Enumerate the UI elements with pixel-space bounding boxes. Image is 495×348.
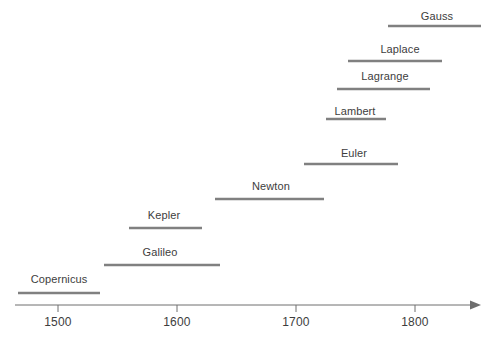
x-axis-tick-label: 1700 bbox=[282, 316, 310, 329]
timeline-chart: CopernicusGalileoKeplerNewtonEulerLamber… bbox=[0, 0, 495, 348]
timeline-bar-label: Laplace bbox=[380, 43, 419, 55]
timeline-bar-label: Lambert bbox=[334, 105, 375, 117]
x-axis-tick-label: 1800 bbox=[401, 316, 429, 329]
timeline-plot-svg bbox=[0, 0, 495, 348]
timeline-bars-group bbox=[18, 26, 481, 293]
timeline-bar-label: Kepler bbox=[148, 209, 180, 221]
x-axis-tick-label: 1500 bbox=[44, 316, 72, 329]
timeline-bar-label: Galileo bbox=[143, 246, 178, 258]
timeline-axis-group bbox=[15, 300, 481, 312]
timeline-bar-label: Euler bbox=[341, 147, 367, 159]
x-axis-tick-label: 1600 bbox=[163, 316, 191, 329]
timeline-bar-label: Lagrange bbox=[361, 70, 408, 82]
x-axis-arrow-icon bbox=[470, 300, 481, 309]
timeline-bar-label: Gauss bbox=[421, 10, 453, 22]
timeline-bar-label: Copernicus bbox=[31, 273, 88, 285]
timeline-bar-label: Newton bbox=[252, 180, 290, 192]
